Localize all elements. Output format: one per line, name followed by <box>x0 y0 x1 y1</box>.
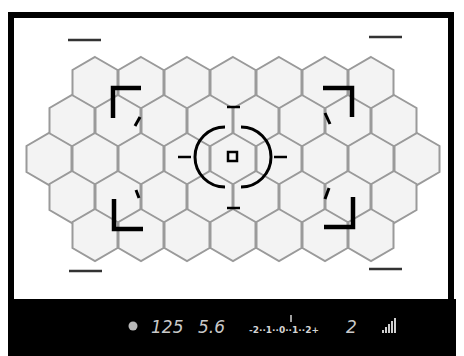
focus-confirm-dot-icon <box>129 322 138 331</box>
exposure-scale: -2··1··0··1··2+ <box>249 325 319 335</box>
aperture: 5.6 <box>198 317 225 337</box>
viewfinder-diagram: 125 5.6 -2··1··0··1··2+ 2 <box>0 0 464 356</box>
shutter-speed: 125 <box>151 317 183 337</box>
frame-count: 2 <box>346 317 357 337</box>
focus-point-hex-grid <box>27 57 440 261</box>
